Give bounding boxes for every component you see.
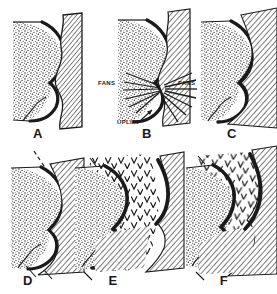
panel-b-label-fans-left: FANS: [98, 80, 115, 86]
panel-b-label-uplift: UPLIFT: [117, 119, 140, 125]
panel-f: [186, 146, 277, 280]
panel-b-label-fans-right: FANS: [178, 80, 195, 86]
panel-label-a: A: [33, 126, 43, 141]
panel-label-e: E: [108, 273, 117, 288]
panel-label-d: D: [23, 273, 33, 288]
panel-e: [75, 152, 184, 280]
panel-label-b: B: [142, 126, 152, 141]
panel-label-f: F: [220, 273, 228, 288]
figure-canvas: A FANS FANS UPLIFT: [0, 0, 277, 294]
panel-label-c: C: [227, 126, 237, 141]
geology-figure: A FANS FANS UPLIFT: [0, 0, 277, 294]
